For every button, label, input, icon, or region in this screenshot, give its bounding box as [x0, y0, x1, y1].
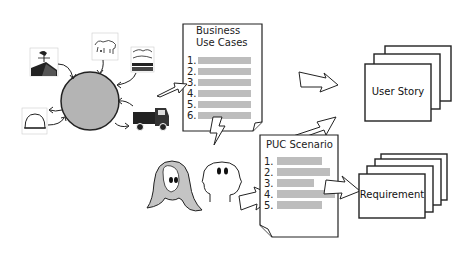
arrow-to-user-story [299, 72, 338, 92]
buc-item-number: 5. [187, 100, 197, 110]
buc-item-number: 1. [187, 56, 197, 66]
puc-item-number: 5. [264, 201, 274, 211]
buc-item-number: 4. [187, 89, 197, 99]
puc-item-number: 1. [264, 157, 274, 167]
cow-icon [92, 33, 118, 60]
man-figure [202, 162, 241, 202]
hardhat-icon [22, 108, 47, 134]
woman-figure [147, 161, 202, 211]
truck-icon [131, 104, 171, 132]
puc-scenario-title: PUC Scenario [266, 139, 333, 150]
weathervane-house-icon [30, 48, 58, 76]
business-use-cases-title-line1: Business [196, 25, 240, 36]
puc-item-number: 2. [264, 168, 274, 178]
buc-item-number: 3. [187, 78, 197, 88]
buc-item-number: 6. [187, 111, 197, 121]
business-use-cases-title-line2: Use Cases [196, 37, 248, 48]
requirement-stack [359, 154, 447, 218]
business-circle [61, 72, 119, 130]
puc-item-number: 3. [264, 179, 274, 189]
user-story-stack [365, 46, 451, 121]
landscape-icon [131, 47, 154, 72]
buc-item-number: 2. [187, 67, 197, 77]
puc-item-number: 4. [264, 190, 274, 200]
user-story-label: User Story [365, 86, 431, 97]
requirement-label: Requirement [359, 189, 425, 200]
